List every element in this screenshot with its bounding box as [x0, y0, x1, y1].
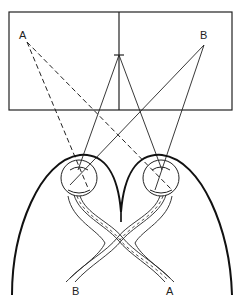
- head-outline: [12, 155, 232, 295]
- rays-from-b: [70, 45, 204, 190]
- binocular-vision-diagram: A B B A: [0, 0, 242, 300]
- label-nerve-a: A: [166, 285, 174, 297]
- rays-from-a: [27, 42, 172, 190]
- label-nerve-b: B: [72, 285, 79, 297]
- left-eye: [61, 160, 97, 196]
- label-field-a: A: [19, 29, 27, 41]
- right-eye: [143, 160, 179, 196]
- fixation-rays: [78, 55, 162, 170]
- label-field-b: B: [200, 29, 207, 41]
